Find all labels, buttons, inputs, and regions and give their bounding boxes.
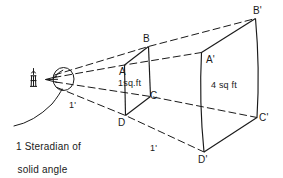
- caption: 1 Steradian of solid angle: [4, 130, 81, 178]
- vertex-label-B-prime: B': [253, 5, 262, 16]
- distance-label-far: 1': [150, 143, 157, 153]
- vertex-label-D: D: [118, 117, 125, 128]
- vertex-label-C: C: [150, 90, 157, 101]
- far-area-label: 4 sq ft: [211, 80, 237, 90]
- caption-line-1: 1 Steradian of: [16, 141, 81, 152]
- vertex-label-B: B: [143, 33, 150, 44]
- vertex-label-A-prime: A': [206, 54, 215, 65]
- steradian-diagram: A B C D 1sq.ft A' B' C' D' 4 sq ft 1' 1'…: [0, 0, 283, 178]
- vertex-label-D-prime: D': [198, 154, 208, 165]
- caption-leader-line: [14, 89, 62, 126]
- near-area-label: 1sq.ft: [118, 78, 141, 88]
- distance-label-near: 1': [69, 100, 76, 110]
- vertex-label-C-prime: C': [259, 112, 269, 123]
- candle-icon: [30, 69, 36, 87]
- caption-line-2: solid angle: [4, 164, 81, 175]
- vertex-label-A: A: [119, 66, 126, 77]
